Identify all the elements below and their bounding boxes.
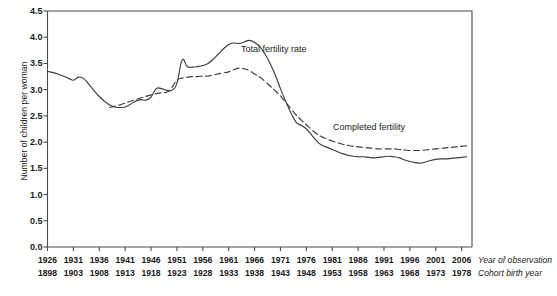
y-tick-label: 2.0 bbox=[17, 137, 43, 147]
y-tick-label: 3.0 bbox=[17, 85, 43, 95]
fertility-line-chart: Number of children per woman 0.00.51.01.… bbox=[0, 0, 557, 296]
x-axis-caption-year-of-observation: Year of observation bbox=[478, 255, 552, 265]
series-line-total-fertility-rate bbox=[48, 40, 467, 163]
annotation-completed-fertility: Completed fertility bbox=[333, 122, 405, 132]
x-tick-label: 2006 bbox=[445, 255, 479, 265]
y-tick-label: 4.5 bbox=[17, 6, 43, 16]
y-tick-label: 0.5 bbox=[17, 216, 43, 226]
x-axis-caption-cohort-birth-year: Cohort birth year bbox=[478, 268, 542, 278]
annotation-total-fertility-rate: Total fertility rate bbox=[241, 44, 307, 54]
y-tick-label: 4.0 bbox=[17, 32, 43, 42]
y-tick-label: 0.0 bbox=[17, 242, 43, 252]
y-tick-label: 2.5 bbox=[17, 111, 43, 121]
series-group bbox=[48, 40, 467, 163]
x-tick-label: 1978 bbox=[445, 268, 479, 278]
y-tick-label: 3.5 bbox=[17, 58, 43, 68]
y-tick-label: 1.5 bbox=[17, 163, 43, 173]
series-line-completed-fertility bbox=[110, 68, 467, 150]
y-tick-label: 1.0 bbox=[17, 190, 43, 200]
